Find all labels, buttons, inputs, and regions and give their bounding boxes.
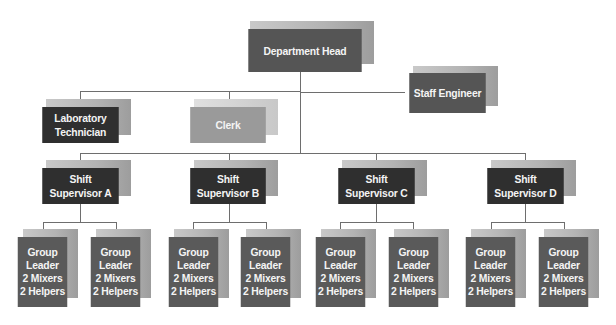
group-line1: Group: [325, 246, 355, 259]
lab-tech-label-line2: Technician: [55, 125, 106, 139]
lab-tech-label-line1: Laboratory: [54, 111, 106, 125]
group-line2: Leader: [177, 259, 210, 272]
group-line1: Group: [178, 246, 208, 259]
supervisor-d-line1: Shift: [514, 172, 536, 186]
group-leader-d1-box[interactable]: GroupLeader2 Mixers2 Helpers: [466, 237, 516, 307]
group-line4: 2 Helpers: [541, 285, 586, 298]
connector-a-bar: [43, 222, 117, 223]
group-line4: 2 Helpers: [318, 285, 363, 298]
group-line4: 2 Helpers: [20, 285, 65, 298]
shift-supervisor-a-box[interactable]: Shift Supervisor A: [42, 168, 119, 204]
shift-supervisor-c-box[interactable]: Shift Supervisor C: [338, 168, 415, 204]
group-line1: Group: [475, 246, 505, 259]
connector-head-down: [300, 72, 301, 154]
connector-b-bar: [193, 222, 267, 223]
connector-b-down: [229, 204, 230, 222]
group-line3: 2 Mixers: [96, 272, 136, 285]
group-leader-a1-box[interactable]: GroupLeader2 Mixers2 Helpers: [18, 237, 68, 307]
group-line2: Leader: [249, 259, 282, 272]
supervisor-b-line1: Shift: [217, 172, 239, 186]
department-head-box[interactable]: Department Head: [248, 29, 361, 72]
group-line3: 2 Mixers: [174, 272, 214, 285]
group-line2: Leader: [26, 259, 59, 272]
group-leader-c1-box[interactable]: GroupLeader2 Mixers2 Helpers: [316, 237, 366, 307]
staff-engineer-label: Staff Engineer: [414, 86, 482, 100]
group-line2: Leader: [397, 259, 430, 272]
group-leader-c2-box[interactable]: GroupLeader2 Mixers2 Helpers: [389, 237, 439, 307]
group-line1: Group: [100, 246, 130, 259]
group-line4: 2 Helpers: [468, 285, 513, 298]
group-line4: 2 Helpers: [243, 285, 288, 298]
group-line1: Group: [398, 246, 428, 259]
clerk-label: Clerk: [215, 118, 240, 132]
group-line3: 2 Mixers: [321, 272, 361, 285]
connector-staff-bar: [80, 91, 301, 92]
group-line4: 2 Helpers: [93, 285, 138, 298]
supervisor-a-line1: Shift: [69, 172, 91, 186]
group-line4: 2 Helpers: [171, 285, 216, 298]
clerk-box[interactable]: Clerk: [190, 107, 266, 143]
group-line4: 2 Helpers: [391, 285, 436, 298]
connector-c-down: [376, 204, 377, 222]
group-line3: 2 Mixers: [544, 272, 584, 285]
supervisor-b-line2: Supervisor B: [197, 186, 259, 200]
laboratory-technician-box[interactable]: Laboratory Technician: [42, 107, 119, 143]
group-line2: Leader: [474, 259, 507, 272]
supervisor-c-line1: Shift: [365, 172, 387, 186]
group-line1: Group: [27, 246, 57, 259]
group-line3: 2 Mixers: [471, 272, 511, 285]
connector-staff-engineer: [300, 92, 405, 93]
group-line3: 2 Mixers: [394, 272, 434, 285]
group-line3: 2 Mixers: [246, 272, 286, 285]
staff-engineer-box[interactable]: Staff Engineer: [409, 73, 486, 113]
connector-d-down: [525, 204, 526, 222]
group-line2: Leader: [99, 259, 132, 272]
group-line2: Leader: [324, 259, 357, 272]
connector-supervisor-bar: [80, 153, 526, 154]
group-line3: 2 Mixers: [23, 272, 63, 285]
group-line1: Group: [250, 246, 280, 259]
group-leader-b1-box[interactable]: GroupLeader2 Mixers2 Helpers: [169, 237, 219, 307]
connector-a-down: [80, 204, 81, 222]
supervisor-d-line2: Supervisor D: [494, 186, 556, 200]
shift-supervisor-b-box[interactable]: Shift Supervisor B: [190, 168, 266, 204]
connector-c-bar: [340, 222, 414, 223]
group-leader-b2-box[interactable]: GroupLeader2 Mixers2 Helpers: [241, 237, 291, 307]
department-head-label: Department Head: [264, 44, 347, 58]
group-line2: Leader: [547, 259, 580, 272]
shift-supervisor-d-box[interactable]: Shift Supervisor D: [487, 168, 564, 204]
group-leader-d2-box[interactable]: GroupLeader2 Mixers2 Helpers: [539, 237, 589, 307]
group-leader-a2-box[interactable]: GroupLeader2 Mixers2 Helpers: [91, 237, 141, 307]
connector-d-bar: [491, 222, 565, 223]
supervisor-c-line2: Supervisor C: [345, 186, 407, 200]
supervisor-a-line2: Supervisor A: [50, 186, 112, 200]
group-line1: Group: [548, 246, 578, 259]
